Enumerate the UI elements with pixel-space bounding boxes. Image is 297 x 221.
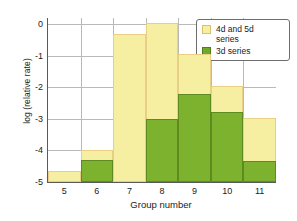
chart-figure: log (relative rate) 0-1-2-3-4-5567891011… <box>0 0 297 221</box>
x-axis-tick-label: 5 <box>62 186 67 196</box>
y-axis-tick-label: -3 <box>35 114 43 124</box>
x-axis-label: Group number <box>47 199 275 210</box>
bar-9-inner <box>178 94 211 182</box>
y-axis-tick-label: 0 <box>38 19 43 29</box>
legend-label-3d-series: 3d series <box>216 46 251 56</box>
bar-7-outer <box>113 34 146 182</box>
bar-6-inner <box>81 160 114 182</box>
x-axis-tick-label: 7 <box>127 186 132 196</box>
y-axis-tick-label: -2 <box>35 82 43 92</box>
legend-label-4d-and-5d-series: 4d and 5dseries <box>216 24 254 44</box>
bar-5-outer <box>48 171 81 182</box>
x-axis-tick-label: 8 <box>159 186 164 196</box>
y-axis-tick-label: -1 <box>35 51 43 61</box>
bar-8-inner <box>146 119 179 182</box>
x-axis-tick-label: 6 <box>94 186 99 196</box>
x-axis-tick-label: 9 <box>192 186 197 196</box>
legend-item-4d-and-5d-series: 4d and 5dseries <box>202 24 284 44</box>
y-axis-tick-label: -4 <box>35 145 43 155</box>
bar-11-inner <box>243 161 276 182</box>
bar-10-inner <box>211 112 244 182</box>
y-axis-label: log (relative rate) <box>22 11 32 171</box>
yellow-swatch-icon <box>202 25 211 34</box>
y-axis-tick-label: -5 <box>35 177 43 187</box>
x-axis-tick-label: 10 <box>222 186 232 196</box>
legend-item-3d-series: 3d series <box>202 46 284 56</box>
x-axis-tick-label: 11 <box>255 186 264 196</box>
